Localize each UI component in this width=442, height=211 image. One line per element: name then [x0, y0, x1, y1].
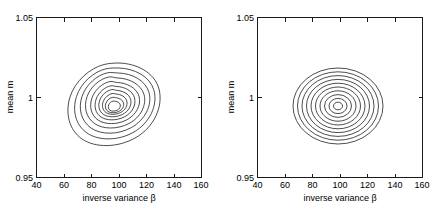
y-axis-title: mean m [5, 81, 15, 114]
x-tick-label: 60 [59, 180, 69, 190]
y-axis-title: mean m [226, 81, 236, 114]
right-contour-plot: 40 60 80 100 120 140 160 1.05 1 0.95 inv… [221, 0, 442, 211]
x-tick-label: 60 [280, 180, 290, 190]
x-axis-ticks [37, 18, 202, 178]
y-tick-label: 1.05 [236, 13, 254, 23]
y-tick-labels: 1.05 1 0.95 [15, 13, 33, 183]
x-tick-label: 160 [193, 180, 208, 190]
y-tick-label: 0.95 [236, 173, 254, 183]
x-tick-label: 80 [307, 180, 317, 190]
plot-frame [37, 18, 202, 178]
x-tick-labels: 40 60 80 100 120 140 160 [31, 180, 208, 190]
figure-container: 40 60 80 100 120 140 160 1.05 1 0.95 inv… [0, 0, 442, 211]
x-tick-label: 100 [111, 180, 126, 190]
contour-lines [68, 63, 160, 146]
left-contour-plot: 40 60 80 100 120 140 160 1.05 1 0.95 inv… [0, 0, 221, 211]
y-axis-ticks [37, 18, 202, 178]
plot-frame [258, 18, 423, 178]
x-tick-label: 80 [86, 180, 96, 190]
y-tick-label: 0.95 [15, 173, 33, 183]
y-tick-label: 1.05 [15, 13, 33, 23]
x-tick-labels: 40 60 80 100 120 140 160 [252, 180, 429, 190]
x-tick-label: 120 [360, 180, 375, 190]
x-tick-label: 140 [387, 180, 402, 190]
y-tick-labels: 1.05 1 0.95 [236, 13, 254, 183]
x-axis-title: inverse variance β [303, 193, 376, 203]
x-tick-label: 160 [414, 180, 429, 190]
x-axis-title: inverse variance β [82, 193, 155, 203]
x-axis-ticks [258, 18, 423, 178]
y-tick-label: 1 [28, 93, 33, 103]
x-tick-label: 120 [139, 180, 154, 190]
y-axis-ticks [258, 18, 423, 178]
x-tick-label: 100 [332, 180, 347, 190]
contour-lines [293, 68, 383, 144]
x-tick-label: 140 [166, 180, 181, 190]
y-tick-label: 1 [249, 93, 254, 103]
